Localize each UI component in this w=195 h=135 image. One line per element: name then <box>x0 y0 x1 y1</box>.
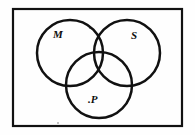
scan-speck-bottom-icon <box>57 122 59 124</box>
circle-label-s: S <box>131 30 137 41</box>
venn-diagram-canvas <box>0 0 195 135</box>
venn-diagram-figure: M S .P <box>0 0 195 135</box>
circle-label-p: .P <box>88 94 97 105</box>
circle-label-m: M <box>53 29 63 40</box>
scan-speck-top-icon <box>89 27 91 29</box>
